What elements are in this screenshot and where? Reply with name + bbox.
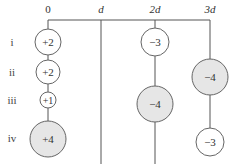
charge-diagram: 0 d 2d 3d i ii iii iv +2 −3 +2 −4 +1 −4 … — [0, 0, 234, 164]
svg-text:−4: −4 — [149, 98, 161, 110]
charge-ii-0: +2 — [36, 60, 60, 84]
charge-ii-3d: −4 — [192, 59, 228, 95]
charge-i-2d: −3 — [141, 28, 169, 56]
charge-iii-2d: −4 — [137, 86, 173, 122]
axis-label-2d: 2d — [150, 3, 162, 15]
svg-text:+4: +4 — [42, 133, 54, 145]
row-label-iii: iii — [7, 94, 16, 106]
svg-text:+1: +1 — [43, 95, 54, 106]
axis-label-d: d — [98, 3, 104, 15]
axis-label-3d: 3d — [204, 3, 217, 15]
svg-text:−3: −3 — [204, 136, 216, 148]
row-label-ii: ii — [9, 66, 15, 78]
charge-i-0: +2 — [35, 29, 61, 55]
svg-text:+2: +2 — [42, 66, 54, 78]
svg-text:−3: −3 — [149, 36, 161, 48]
row-label-i: i — [10, 36, 13, 48]
row-label-iv: iv — [8, 132, 17, 144]
svg-text:−4: −4 — [204, 71, 216, 83]
charge-iv-0: +4 — [30, 121, 66, 157]
charge-iii-0: +1 — [40, 92, 56, 108]
svg-text:+2: +2 — [42, 36, 54, 48]
charge-iv-3d: −3 — [196, 128, 224, 156]
axis-label-0: 0 — [45, 3, 51, 15]
